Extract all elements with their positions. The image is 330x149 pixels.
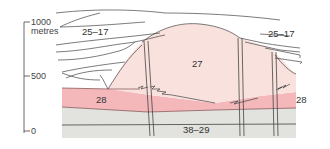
basement-layer bbox=[62, 107, 296, 138]
label-upper-left-strata: 25–17 bbox=[82, 26, 108, 37]
label-layer-28-left: 28 bbox=[96, 94, 107, 105]
axis-unit-label: metres bbox=[31, 26, 59, 36]
label-dome: 27 bbox=[192, 58, 203, 69]
label-basement: 38–29 bbox=[183, 124, 209, 135]
tick-label-0: 0 bbox=[31, 126, 36, 136]
depth-scale-axis: 1000 metres 500 0 bbox=[24, 17, 59, 136]
cross-section-diagram: 1000 metres 500 0 bbox=[0, 0, 330, 149]
tick-label-500: 500 bbox=[31, 71, 46, 81]
label-upper-right-strata: 25–17 bbox=[268, 28, 294, 39]
label-layer-28-right: 28 bbox=[296, 94, 307, 105]
